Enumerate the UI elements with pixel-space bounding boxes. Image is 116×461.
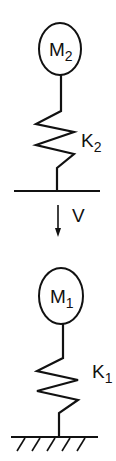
spring-k2-coil xyxy=(36,75,74,191)
spring-k1-coil xyxy=(37,324,78,437)
mass-m1-label: M1 xyxy=(50,286,74,311)
mass-spring-diagram: M2 K2 V M1 K1 xyxy=(0,0,116,461)
spring-k2-label: K2 xyxy=(81,130,102,155)
velocity-label: V xyxy=(72,205,85,226)
mass-m1: M1 xyxy=(39,268,83,324)
spring-k1: K1 xyxy=(37,324,113,437)
ground xyxy=(11,437,98,451)
arrowhead-icon xyxy=(55,228,61,237)
spring-k2: K2 xyxy=(36,75,102,191)
mass-m2: M2 xyxy=(39,23,81,75)
ground-hatch-icon xyxy=(17,438,85,451)
velocity-arrow: V xyxy=(55,205,85,237)
spring-k1-label: K1 xyxy=(92,361,113,386)
mass-m2-label: M2 xyxy=(49,39,73,64)
